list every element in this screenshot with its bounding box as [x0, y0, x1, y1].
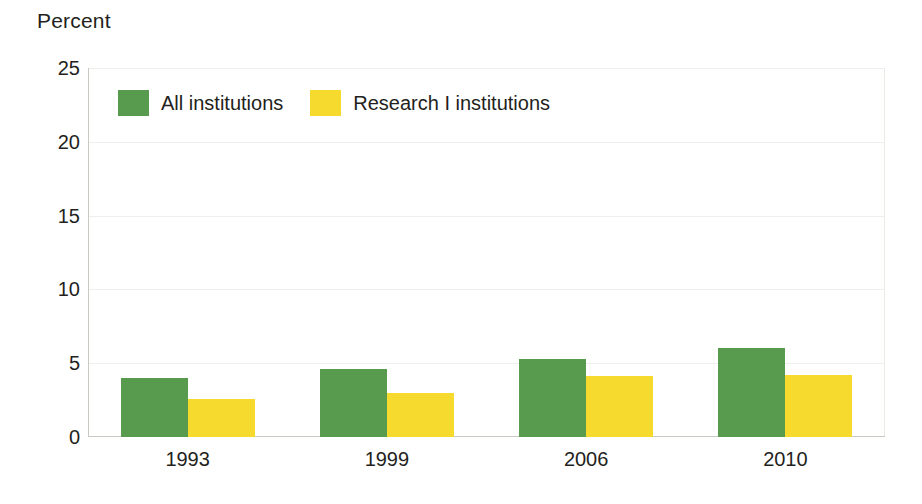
x-axis-tick-label: 1993 — [165, 446, 210, 472]
gridline — [89, 142, 885, 143]
y-axis-tick-label: 10 — [22, 279, 80, 299]
legend-label: All institutions — [161, 91, 283, 115]
legend-swatch-green — [118, 90, 149, 116]
gridline — [89, 68, 885, 69]
x-axis-ticks: 1993199920062010 — [88, 446, 885, 486]
y-axis-tick-label: 25 — [22, 58, 80, 78]
x-axis-tick-label: 2010 — [763, 446, 808, 472]
legend-label: Research I institutions — [353, 91, 550, 115]
y-axis-tick-label: 15 — [22, 206, 80, 226]
plot-area — [88, 68, 885, 437]
y-axis-tick-label: 5 — [22, 353, 80, 373]
plot-right-edge — [884, 68, 885, 436]
legend-item[interactable]: All institutions — [118, 90, 283, 116]
x-axis-tick-label: 2006 — [564, 446, 609, 472]
y-axis-tick-label: 0 — [22, 427, 80, 447]
legend-swatch-yellow — [310, 90, 341, 116]
bar-chart: Percent 0510152025 1993199920062010 All … — [0, 0, 922, 504]
y-axis-tick-label: 20 — [22, 132, 80, 152]
legend-item[interactable]: Research I institutions — [310, 90, 550, 116]
y-axis-title: Percent — [37, 8, 111, 34]
gridline — [89, 363, 885, 364]
gridline — [89, 216, 885, 217]
y-axis-ticks: 0510152025 — [20, 68, 80, 437]
x-axis-tick-label: 1999 — [365, 446, 410, 472]
chart-legend: All institutionsResearch I institutions — [118, 90, 550, 116]
gridline — [89, 289, 885, 290]
